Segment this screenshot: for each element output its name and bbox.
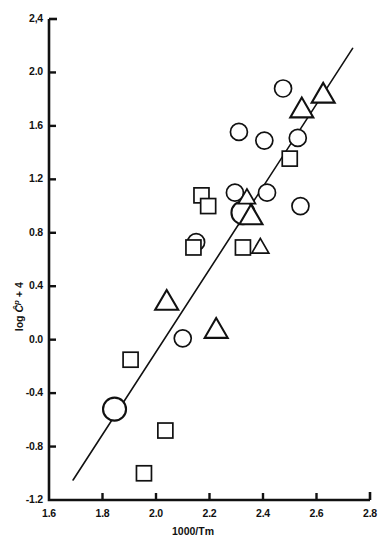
triangle-marker bbox=[252, 238, 269, 253]
y-tick-label: -1.2 bbox=[26, 493, 43, 505]
triangle-marker bbox=[312, 83, 335, 103]
triangle-marker bbox=[290, 98, 313, 118]
x-tick-label: 2.2 bbox=[196, 507, 224, 519]
square-marker bbox=[123, 352, 138, 367]
y-tick-label: 2,4 bbox=[29, 12, 43, 24]
x-axis-title: 1000/Tm bbox=[0, 525, 386, 537]
y-tick-label: 2.0 bbox=[29, 65, 43, 77]
square-marker bbox=[201, 199, 216, 214]
circle-marker bbox=[256, 132, 273, 149]
y-tick-label: -0.8 bbox=[26, 440, 43, 452]
square-marker bbox=[282, 151, 297, 166]
plot-canvas bbox=[0, 0, 386, 551]
scatter-plot-figure: 2,42.01.61.20.80.40.0-0.4-0.8-1.21.61.82… bbox=[0, 0, 386, 551]
data-markers bbox=[103, 80, 335, 481]
y-tick-label: 1.6 bbox=[29, 119, 43, 131]
x-tick-label: 2.6 bbox=[303, 507, 331, 519]
circle-marker bbox=[103, 398, 126, 421]
y-tick-label: 0.4 bbox=[29, 279, 43, 291]
y-tick-label: -0.4 bbox=[26, 386, 43, 398]
y-axis-title: log Ĉp + 4 bbox=[11, 267, 25, 347]
circle-marker bbox=[230, 123, 247, 140]
circle-marker bbox=[275, 80, 292, 97]
y-axis-title-text: log Ĉp + 4 bbox=[13, 282, 25, 331]
triangle-marker bbox=[205, 318, 228, 338]
y-tick-label: 0.8 bbox=[29, 226, 43, 238]
x-tick-label: 1.6 bbox=[35, 507, 63, 519]
axis-ticks bbox=[49, 72, 317, 500]
square-marker bbox=[186, 240, 201, 255]
square-marker bbox=[136, 466, 151, 481]
triangle-marker bbox=[155, 290, 178, 310]
y-tick-label: 1.2 bbox=[29, 172, 43, 184]
x-tick-label: 2.0 bbox=[142, 507, 170, 519]
circle-marker bbox=[174, 330, 191, 347]
square-marker bbox=[235, 240, 250, 255]
circle-marker bbox=[289, 129, 306, 146]
square-marker bbox=[158, 423, 173, 438]
y-tick-label: 0.0 bbox=[29, 333, 43, 345]
x-tick-label: 2.8 bbox=[356, 507, 384, 519]
x-tick-label: 2.4 bbox=[249, 507, 277, 519]
circle-marker bbox=[292, 198, 309, 215]
circle-marker bbox=[259, 184, 276, 201]
x-tick-label: 1.8 bbox=[89, 507, 117, 519]
